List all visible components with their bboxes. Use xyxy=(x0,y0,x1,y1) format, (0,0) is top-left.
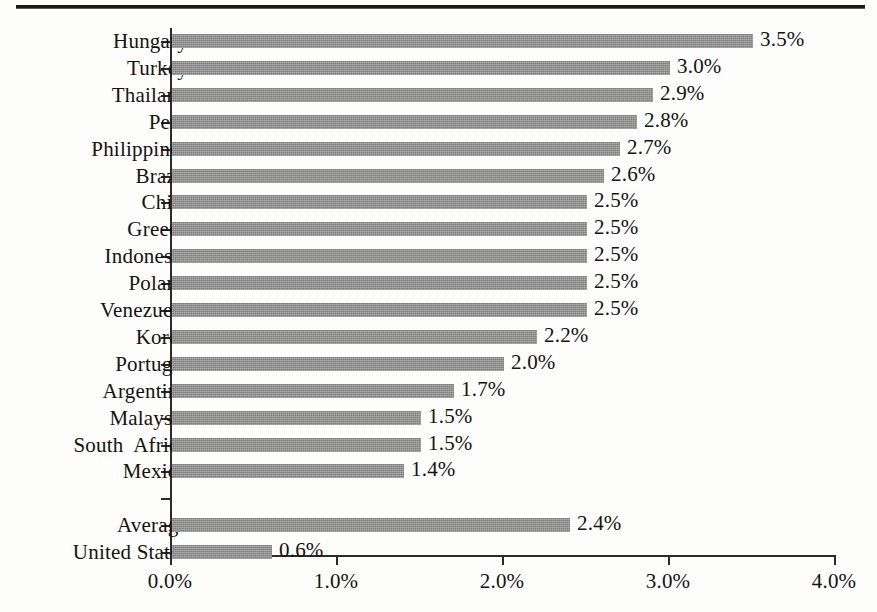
bar-chart: Hungary3.5%Turkey3.0%Thailand2.9%Peru2.8… xyxy=(0,0,877,612)
bar xyxy=(172,303,587,317)
category-label: Philippines xyxy=(0,136,188,163)
category-label: Poland xyxy=(0,270,188,297)
bar-value-label: 2.7% xyxy=(627,140,672,154)
category-label: Turkey xyxy=(0,55,188,82)
category-label: Argentina xyxy=(0,378,188,405)
x-axis-tick-label: 3.0% xyxy=(646,568,691,594)
bar-value-label: 2.0% xyxy=(511,355,556,369)
bar-value-label: 1.5% xyxy=(428,409,473,423)
bar xyxy=(172,142,620,156)
category-label: Mexico xyxy=(0,458,188,485)
bar-value-label: 2.8% xyxy=(644,113,689,127)
bar-value-label: 1.7% xyxy=(461,382,506,396)
bar xyxy=(172,411,421,425)
category-label: Chile xyxy=(0,189,188,216)
bar xyxy=(172,88,653,102)
bar-value-label: 2.4% xyxy=(577,516,622,530)
x-axis-tick-label: 4.0% xyxy=(812,568,857,594)
y-axis-tick xyxy=(161,498,171,500)
x-axis-tick-label: 1.0% xyxy=(314,568,359,594)
x-axis-tick xyxy=(336,555,338,565)
bar-value-label: 2.5% xyxy=(594,301,639,315)
category-label: Hungary xyxy=(0,28,188,55)
x-axis-tick-label: 0.0% xyxy=(148,568,193,594)
bar xyxy=(172,438,421,452)
bar-value-label: 2.9% xyxy=(660,86,705,100)
bar xyxy=(172,34,753,48)
category-label: United States xyxy=(0,539,188,566)
bar-value-label: 1.4% xyxy=(411,462,456,476)
figure-canvas: Hungary3.5%Turkey3.0%Thailand2.9%Peru2.8… xyxy=(0,0,877,612)
x-axis-tick xyxy=(834,555,836,565)
bar xyxy=(172,169,604,183)
x-axis-tick-label: 2.0% xyxy=(480,568,525,594)
bar xyxy=(172,545,272,559)
bar xyxy=(172,357,504,371)
bar xyxy=(172,115,637,129)
bar xyxy=(172,518,570,532)
bar xyxy=(172,330,537,344)
category-label: Venezuela xyxy=(0,297,188,324)
x-axis-tick xyxy=(502,555,504,565)
bar-value-label: 2.5% xyxy=(594,193,639,207)
bar-value-label: 1.5% xyxy=(428,436,473,450)
bar xyxy=(172,249,587,263)
category-label: Greece xyxy=(0,216,188,243)
bar xyxy=(172,464,404,478)
bar xyxy=(172,222,587,236)
category-label: South Africa xyxy=(0,432,188,459)
category-label: Korea xyxy=(0,324,188,351)
bar-value-label: 2.5% xyxy=(594,247,639,261)
x-axis-tick xyxy=(668,555,670,565)
bar xyxy=(172,61,670,75)
category-label: Portugal xyxy=(0,351,188,378)
bar xyxy=(172,384,454,398)
x-axis-tick xyxy=(170,555,172,565)
category-label: Indonesia xyxy=(0,243,188,270)
bar-value-label: 0.6% xyxy=(279,543,324,557)
category-label: Peru xyxy=(0,109,188,136)
bar-value-label: 3.5% xyxy=(760,32,805,46)
category-label: Average xyxy=(0,512,188,539)
bar-value-label: 2.2% xyxy=(544,328,589,342)
category-label: Malaysia xyxy=(0,405,188,432)
bar-value-label: 2.5% xyxy=(594,220,639,234)
bar-value-label: 2.6% xyxy=(611,167,656,181)
bar-value-label: 3.0% xyxy=(677,59,722,73)
bar xyxy=(172,276,587,290)
category-label: Brazil xyxy=(0,163,188,190)
bar-value-label: 2.5% xyxy=(594,274,639,288)
bar xyxy=(172,195,587,209)
category-label: Thailand xyxy=(0,82,188,109)
